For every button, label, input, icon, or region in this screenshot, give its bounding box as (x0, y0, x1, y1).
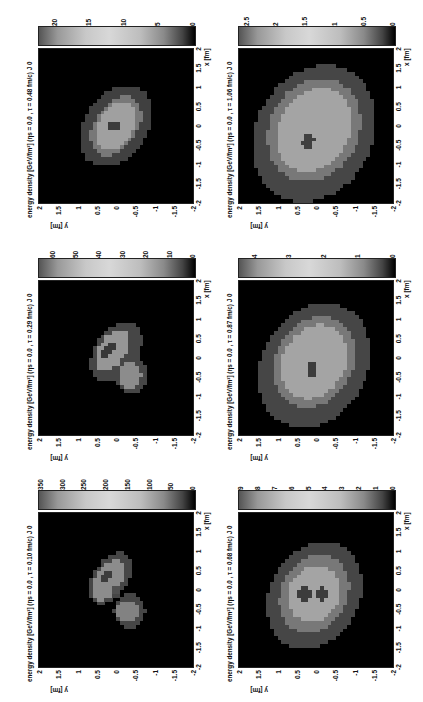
panel-title: energy density [GeV/fm³] (ηs = 0.0 , τ =… (26, 220, 33, 450)
x-tick-label: 2 (195, 279, 202, 283)
colorbar-tick-label: 3 (338, 486, 345, 490)
y-tick-label: -0.5 (332, 438, 339, 458)
x-tick-label: -2 (195, 664, 202, 670)
x-tick-label: 0 (395, 588, 402, 592)
heatmap-panel-4: energy density [GeV/fm³] (ηs = 0.0 , τ =… (228, 468, 418, 690)
colorbar-tick-label: 20 (50, 19, 57, 26)
x-tick-label: -1.5 (195, 642, 202, 653)
y-tick-label: 0.5 (293, 438, 300, 458)
x-tick-label: -1 (195, 394, 202, 400)
colorbar-tick-label: 1 (372, 486, 379, 490)
x-tick-label: -1.5 (195, 178, 202, 189)
y-axis-label: y [fm] (50, 687, 68, 694)
x-tick-label: -1.5 (395, 410, 402, 421)
x-tick-label: 2 (395, 511, 402, 515)
heatmap-plot-area (38, 512, 194, 668)
y-tick-label: 0 (113, 206, 120, 226)
x-tick-label: 1.5 (395, 528, 402, 537)
colorbar-tick-label: 60 (48, 251, 55, 258)
x-tick-label: 1 (195, 318, 202, 322)
x-tick-label: 1 (195, 86, 202, 90)
x-axis-label: x [fm] (203, 280, 210, 298)
x-tick-label: 0 (395, 124, 402, 128)
y-tick-label: 2 (36, 206, 43, 226)
heatmap-plot-area (238, 280, 394, 436)
panel-title: energy density [GeV/fm³] (ηs = 0.0 , τ =… (26, 0, 33, 218)
heatmap-plot-area (238, 48, 394, 204)
heatmap-panel-6: energy density [GeV/fm³] (ηs = 0.0 , τ =… (228, 4, 418, 226)
colorbar (38, 490, 196, 510)
colorbar-tick-label: 250 (80, 479, 87, 490)
y-tick-label: -2 (190, 670, 197, 690)
x-tick-label: 0.5 (395, 566, 402, 575)
x-tick-label: 0.5 (395, 334, 402, 343)
colorbar-tick-label: 30 (118, 251, 125, 258)
y-tick-label: -1.5 (370, 438, 377, 458)
x-tick-label: 2 (395, 47, 402, 51)
colorbar-tick-label: 15 (85, 19, 92, 26)
y-tick-label: 0 (313, 670, 320, 690)
y-tick-label: -0.5 (332, 206, 339, 226)
x-tick-label: -1 (195, 626, 202, 632)
x-tick-label: 1 (395, 318, 402, 322)
colorbar-tick-label: 4 (250, 254, 257, 258)
colorbar-tick-label: 0 (389, 254, 396, 258)
colorbar-tick-label: 7 (270, 486, 277, 490)
x-tick-label: -0.5 (395, 372, 402, 383)
y-axis-label: y [fm] (50, 223, 68, 230)
colorbar-tick-label: 50 (72, 251, 79, 258)
y-tick-label: -1.5 (170, 206, 177, 226)
x-tick-label: -1 (395, 626, 402, 632)
y-tick-label: 0.5 (93, 206, 100, 226)
colorbar-tick-label: 0 (389, 22, 396, 26)
y-tick-label: -1.5 (370, 670, 377, 690)
y-tick-label: 0.5 (293, 670, 300, 690)
y-tick-label: -0.5 (132, 438, 139, 458)
x-axis-label: x [fm] (403, 280, 410, 298)
colorbar-tick-label: 0 (189, 22, 196, 26)
y-tick-label: 2 (236, 438, 243, 458)
y-tick-label: 2 (36, 438, 43, 458)
y-tick-label: -1 (151, 670, 158, 690)
y-tick-label: -0.5 (132, 206, 139, 226)
x-axis-label: x [fm] (203, 512, 210, 530)
x-tick-label: -0.5 (195, 604, 202, 615)
x-tick-label: 0.5 (195, 566, 202, 575)
y-tick-label: -1 (351, 438, 358, 458)
x-tick-label: 0.5 (195, 102, 202, 111)
colorbar-tick-label: 6 (287, 486, 294, 490)
x-tick-label: 0 (395, 356, 402, 360)
x-tick-label: -2 (395, 200, 402, 206)
colorbar-tick-label: 0 (189, 254, 196, 258)
x-tick-label: 1 (195, 550, 202, 554)
y-tick-label: 1 (74, 206, 81, 226)
y-tick-label: 2 (236, 670, 243, 690)
x-axis-label: x [fm] (203, 48, 210, 66)
colorbar (238, 258, 396, 278)
x-tick-label: 2 (195, 511, 202, 515)
y-axis-label: y [fm] (250, 687, 268, 694)
x-tick-label: -2 (195, 200, 202, 206)
colorbar-tick-label: 200 (102, 479, 109, 490)
y-tick-label: -2 (390, 670, 397, 690)
x-tick-label: -2 (395, 432, 402, 438)
y-tick-label: 1 (274, 438, 281, 458)
heatmap-plot-area (38, 48, 194, 204)
colorbar-tick-label: 1.5 (301, 17, 308, 26)
colorbar (238, 490, 396, 510)
colorbar-tick-label: 350 (37, 479, 44, 490)
y-tick-label: 0 (113, 670, 120, 690)
colorbar-tick-label: 40 (95, 251, 102, 258)
heatmap-plot-area (38, 280, 194, 436)
y-tick-label: -0.5 (332, 670, 339, 690)
y-tick-label: -1 (151, 438, 158, 458)
colorbar-tick-label: 10 (165, 251, 172, 258)
colorbar-tick-label: 2.5 (242, 17, 249, 26)
x-tick-label: 1.5 (195, 296, 202, 305)
x-tick-label: 1.5 (395, 296, 402, 305)
colorbar-tick-label: 1 (330, 22, 337, 26)
y-tick-label: 1 (274, 670, 281, 690)
colorbar-tick-label: 150 (123, 479, 130, 490)
colorbar-tick-label: 5 (154, 22, 161, 26)
x-tick-label: -1.5 (395, 642, 402, 653)
